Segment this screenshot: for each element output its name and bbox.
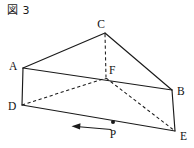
vertex-label-B: B — [177, 85, 185, 97]
solid-edge-group — [22, 33, 175, 131]
motion-arrow-shaft — [76, 127, 111, 130]
point-p-marker — [111, 120, 115, 124]
triangular-prism-diagram: A B C D E F P — [0, 0, 194, 148]
edge-D-F — [22, 78, 106, 105]
motion-arrow — [72, 123, 112, 129]
vertex-label-E: E — [180, 130, 187, 142]
motion-arrow-head — [72, 123, 81, 129]
edge-A-C — [23, 33, 105, 68]
edge-D-E — [22, 105, 175, 131]
figure-container: 図 3 A B C D — [0, 0, 194, 148]
edge-F-E — [106, 78, 175, 131]
vertex-label-F: F — [109, 64, 115, 76]
vertex-label-P: P — [110, 128, 116, 140]
edge-C-F — [105, 34, 106, 77]
vertex-label-A: A — [9, 60, 18, 72]
edge-A-D — [22, 68, 23, 105]
dashed-edge-group — [22, 34, 175, 131]
vertex-label-D: D — [8, 100, 16, 112]
edge-B-E — [172, 90, 175, 131]
vertex-label-C: C — [97, 18, 105, 30]
